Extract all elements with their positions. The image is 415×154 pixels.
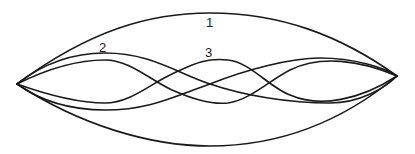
curve-group — [17, 13, 397, 146]
curve-label-1: 1 — [206, 15, 213, 30]
curve-1-lower — [17, 76, 397, 146]
curve-3-a — [17, 60, 397, 103]
curve-label-3: 3 — [205, 45, 212, 60]
mode-shape-diagram: 123 — [0, 0, 415, 154]
curve-label-2: 2 — [99, 40, 106, 55]
diagram-canvas: 123 — [0, 0, 415, 154]
curve-3-b — [17, 59, 397, 103]
